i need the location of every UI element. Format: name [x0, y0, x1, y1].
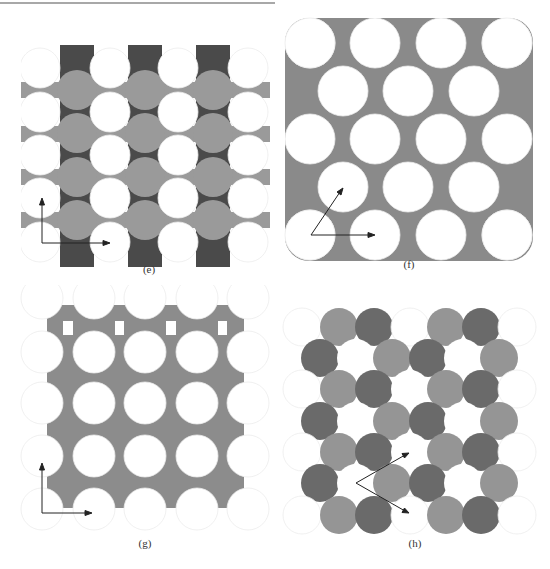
- panel-h-caption: (h): [395, 537, 435, 549]
- panel-f-caption: (f): [389, 258, 429, 270]
- panel-h-lattice: [275, 285, 550, 569]
- panel-g-caption: (g): [125, 537, 165, 549]
- panel-e: (e): [0, 0, 275, 285]
- panel-f-lattice: [275, 0, 550, 285]
- panel-h: (h): [275, 285, 550, 569]
- panel-g-lattice: [0, 285, 275, 569]
- panel-e-caption: (e): [129, 263, 169, 275]
- panel-e-lattice: [0, 0, 275, 285]
- panel-g: (g): [0, 285, 275, 569]
- panel-f: (f): [275, 0, 550, 285]
